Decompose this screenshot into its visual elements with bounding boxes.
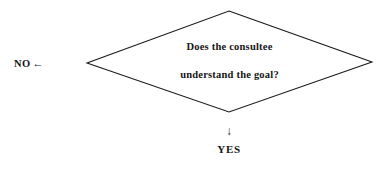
no-branch-label: NO←: [14, 56, 44, 71]
yes-branch-label: ↓ YES: [189, 124, 269, 156]
no-branch-text: NO: [14, 58, 30, 69]
decision-question-line-1: Does the consultee: [87, 33, 372, 61]
arrow-left-icon: ←: [30, 57, 43, 69]
arrow-down-icon: ↓: [189, 124, 269, 138]
decision-question-line-2: understand the goal?: [87, 61, 372, 89]
flowchart-canvas: Does the consultee understand the goal? …: [0, 0, 388, 169]
decision-question-text: Does the consultee understand the goal?: [87, 33, 372, 89]
yes-branch-text: YES: [189, 143, 269, 156]
